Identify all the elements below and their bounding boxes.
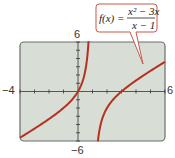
function-graph: −4 6 6 −6 f(x) = x² − 3x x − 1: [0, 0, 175, 158]
callout-numerator: x² − 3x: [127, 5, 160, 17]
callout-denominator: x − 1: [131, 19, 155, 31]
y-min-label: −6: [71, 144, 84, 156]
callout-lhs: f(x) =: [99, 12, 124, 25]
x-min-label: −4: [2, 84, 15, 96]
y-max-label: 6: [74, 28, 80, 40]
x-max-label: 6: [167, 84, 173, 96]
